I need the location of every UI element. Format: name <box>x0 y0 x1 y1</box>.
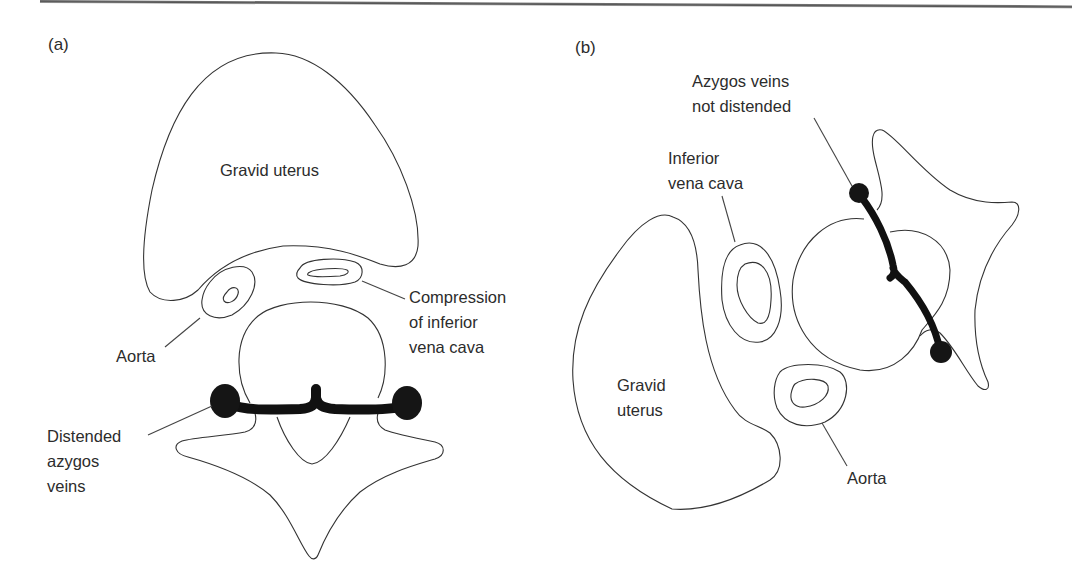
panel-b-ivc-label-line-2: vena cava <box>668 171 743 196</box>
panel-a-vertebral-arch <box>176 413 443 559</box>
panel-a-aorta-lumen <box>223 288 238 303</box>
panel-b-ivc-label-line-1: Inferior <box>668 146 743 171</box>
panel-b-uterus-label-line-1: Gravid <box>617 373 666 398</box>
panel-b-vertebral-body <box>792 219 950 371</box>
panel-a-aorta-label: Aorta <box>116 344 155 369</box>
panel-b-azygos-bottom-ball <box>930 341 952 363</box>
panel-b-ivc-leader <box>722 196 735 242</box>
panel-b-uterus-label-line-2: uterus <box>617 398 666 423</box>
panel-a-aorta-leader <box>165 318 200 347</box>
panel-a-azygos-leader <box>148 406 212 435</box>
panel-a-azygos-label-line-2: azygos <box>47 449 121 474</box>
panel-a-azygos-label-line-1: Distended <box>47 424 121 449</box>
panel-a-azygos-right-ball <box>392 386 422 420</box>
panel-a-ivc-label: Compression of inferior vena cava <box>409 285 506 360</box>
panel-a-azygos-label-line-3: veins <box>47 474 121 499</box>
panel-b-uterus-label: Gravid uterus <box>617 373 666 423</box>
panel-a-ivc-lumen <box>308 269 349 277</box>
panel-a-ivc-label-line-2: of inferior <box>409 310 506 335</box>
panel-b-aorta-lumen <box>791 379 828 407</box>
panel-a-drawing <box>143 53 443 559</box>
panel-b-ivc-outer <box>722 243 782 342</box>
anatomy-diagram <box>0 0 1072 583</box>
panel-a-uterus-label: Gravid uterus <box>220 158 319 183</box>
panel-b-gravid-uterus-shape <box>573 215 780 509</box>
panel-b-aorta-label: Aorta <box>847 466 886 491</box>
panel-a-azygos-label: Distended azygos veins <box>47 424 121 499</box>
panel-b-drawing <box>573 118 1019 509</box>
panel-b-aorta-leader <box>822 423 847 466</box>
panel-b-azygos-leader <box>814 118 852 186</box>
panel-b-azygos-label: Azygos veins not distended <box>692 69 791 119</box>
panel-b-azygos-label-line-1: Azygos veins <box>692 69 791 94</box>
panel-b-aorta-outer <box>774 365 846 426</box>
panel-a-ivc-label-line-3: vena cava <box>409 335 506 360</box>
panel-a-ivc-outer <box>297 259 363 285</box>
panel-a-aorta-outer <box>202 267 255 318</box>
panel-a-ivc-leader <box>362 281 405 299</box>
panel-a-azygos-left-ball <box>210 384 240 418</box>
panel-b-label: (b) <box>575 35 596 60</box>
panel-b-azygos-bar <box>862 198 940 350</box>
panel-a-label: (a) <box>48 32 69 57</box>
panel-a-ivc-label-line-1: Compression <box>409 285 506 310</box>
panel-b-ivc-label: Inferior vena cava <box>668 146 743 196</box>
panel-a-spinal-canal <box>277 417 350 464</box>
panel-b-azygos-label-line-2: not distended <box>692 94 791 119</box>
panel-b-ivc-lumen <box>737 263 771 324</box>
